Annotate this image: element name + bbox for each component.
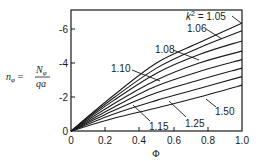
x-tick-0.8: 0.8 — [201, 135, 215, 146]
x-tick-0: 0 — [68, 135, 74, 146]
x-tick-0.2: 0.2 — [98, 135, 112, 146]
label-1.06: 1.06 — [187, 23, 207, 34]
x-tick-0.4: 0.4 — [132, 135, 146, 146]
x-tick-0.6: 0.6 — [167, 135, 181, 146]
label-k2-1.05: k2 = 1.05 — [186, 10, 226, 22]
y-tick-4: -4 — [59, 58, 68, 69]
y-axis-label: nφ = Nφ qa — [6, 64, 50, 89]
y-axis: 0 -2 -4 -6 — [59, 24, 75, 137]
label-1.15: 1.15 — [149, 121, 169, 132]
svg-text:qa: qa — [36, 78, 46, 89]
y-tick-2: -2 — [59, 92, 68, 103]
x-axis-label: Φ — [152, 148, 159, 159]
x-tick-1.0: 1.0 — [235, 135, 249, 146]
label-1.08: 1.08 — [155, 44, 175, 55]
label-1.50: 1.50 — [215, 106, 235, 117]
svg-text:Nφ: Nφ — [35, 64, 47, 77]
chart: 0 -2 -4 -6 0 0.2 0.4 0.6 0.8 1.0 Φ nφ = … — [0, 0, 259, 161]
y-tick-6: -6 — [59, 24, 68, 35]
label-1.25: 1.25 — [185, 118, 205, 129]
svg-text:nφ =: nφ = — [6, 71, 23, 84]
label-1.10: 1.10 — [111, 63, 131, 74]
